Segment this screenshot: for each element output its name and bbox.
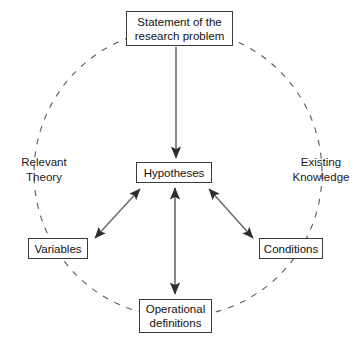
side-label-existing-knowledge-line-2: Knowledge bbox=[285, 170, 357, 185]
node-hypotheses-label: Hypotheses bbox=[144, 166, 205, 180]
research-process-diagram: Statement of the research problem Hypoth… bbox=[0, 0, 361, 346]
connector-hypotheses-to-conditions bbox=[209, 189, 253, 238]
node-hypotheses: Hypotheses bbox=[136, 162, 212, 183]
side-label-existing-knowledge-line-1: Existing bbox=[285, 155, 357, 170]
node-conditions: Conditions bbox=[259, 238, 323, 259]
side-label-existing-knowledge: Existing Knowledge bbox=[285, 155, 357, 184]
side-label-relevant-theory-line-1: Relevant bbox=[10, 155, 78, 170]
node-statement-line-2: research problem bbox=[135, 29, 224, 43]
side-label-relevant-theory-line-2: Theory bbox=[10, 170, 78, 185]
node-statement-of-research-problem: Statement of the research problem bbox=[126, 11, 233, 46]
side-label-relevant-theory: Relevant Theory bbox=[10, 155, 78, 184]
node-statement-line-1: Statement of the bbox=[137, 15, 221, 29]
connector-hypotheses-to-variables bbox=[95, 189, 140, 238]
node-variables-label: Variables bbox=[34, 242, 81, 256]
node-operational-line-1: Operational bbox=[146, 302, 205, 316]
node-operational-line-2: definitions bbox=[150, 316, 202, 330]
node-operational-definitions: Operational definitions bbox=[139, 299, 212, 333]
node-variables: Variables bbox=[28, 238, 88, 259]
node-conditions-label: Conditions bbox=[264, 242, 318, 256]
